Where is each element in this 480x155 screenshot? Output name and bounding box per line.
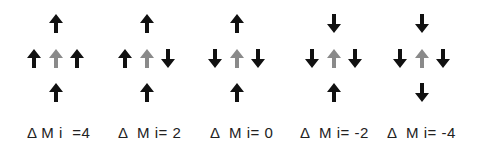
arrow-down-icon — [415, 14, 429, 33]
delta-mi-label: Δ M i= -4 — [387, 124, 456, 141]
delta-mi-label: Δ M i= -2 — [300, 124, 369, 141]
arrow-up-icon — [230, 83, 244, 102]
arrow-up-icon — [140, 83, 154, 102]
arrow-up-icon — [140, 14, 154, 33]
arrow-up-icon — [49, 83, 63, 102]
arrow-up-icon — [49, 14, 63, 33]
arrow-up-icon — [327, 83, 341, 102]
arrow-up-icon — [70, 49, 84, 68]
delta-mi-label: Δ M i= 2 — [118, 124, 181, 141]
arrow-down-icon — [251, 49, 265, 68]
arrow-up-icon — [415, 49, 429, 68]
arrow-down-icon — [208, 49, 222, 68]
arrow-down-icon — [415, 83, 429, 102]
arrow-down-icon — [161, 49, 175, 68]
delta-mi-label: Δ M i =4 — [27, 124, 90, 141]
arrow-down-icon — [348, 49, 362, 68]
delta-mi-label: Δ M i= 0 — [210, 124, 273, 141]
arrow-up-icon — [118, 49, 132, 68]
arrow-up-icon — [327, 49, 341, 68]
arrow-down-icon — [436, 49, 450, 68]
arrow-up-icon — [230, 49, 244, 68]
arrow-up-icon — [230, 14, 244, 33]
arrow-up-icon — [49, 49, 63, 68]
arrow-up-icon — [27, 49, 41, 68]
arrow-up-icon — [140, 49, 154, 68]
arrow-down-icon — [305, 49, 319, 68]
arrow-down-icon — [327, 14, 341, 33]
arrow-down-icon — [393, 49, 407, 68]
